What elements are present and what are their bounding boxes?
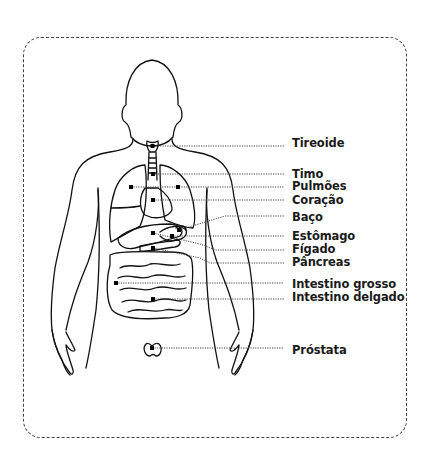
lung-lobe [111, 206, 140, 208]
label-pancreas: Pâncreas [292, 256, 350, 269]
right-hand [230, 330, 253, 374]
marker-timo [151, 172, 155, 176]
label-baco: Baço [292, 211, 323, 224]
marker-baco [177, 228, 181, 232]
marker-intestino-delgado [151, 297, 155, 301]
body-diagram [0, 0, 432, 473]
marker-coracao [151, 198, 155, 202]
marker-prostata [150, 346, 154, 350]
left-hand [52, 330, 75, 374]
label-coracao: Coração [292, 194, 344, 207]
marker-pancreas [151, 246, 155, 250]
marker-tireoide [151, 144, 155, 148]
label-intestino-delgado: Intestino delgado [292, 291, 405, 304]
small-intestine [118, 264, 186, 312]
large-intestine [107, 252, 193, 319]
head-outline [122, 60, 182, 146]
left-arm-inner [66, 188, 99, 330]
body-outline-left [51, 139, 133, 375]
label-tireoide: Tireoide [292, 137, 344, 150]
label-prostata: Próstata [292, 344, 347, 357]
right-arm-inner [206, 188, 239, 330]
marker-pulmoes-right [176, 185, 180, 189]
label-pulmoes: Pulmões [292, 180, 346, 193]
marker-figado [151, 231, 155, 235]
marker-estomago [170, 234, 174, 238]
marker-pulmoes-left [129, 185, 133, 189]
marker-intestino-grosso [114, 281, 118, 285]
